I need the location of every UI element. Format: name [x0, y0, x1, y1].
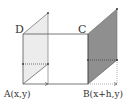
left-dot-top: [47, 12, 49, 14]
label-A: A(x,y): [3, 89, 31, 99]
left-dot-front: [22, 63, 24, 65]
right-dot-back: [116, 59, 118, 61]
left-dot-back: [47, 63, 49, 65]
label-B: B(x+h,y): [83, 89, 123, 99]
geometry-diagram: D C A(x,y) B(x+h,y): [0, 0, 132, 104]
label-C: C: [78, 23, 86, 36]
right-dot-front: [87, 59, 89, 61]
right-dot-top: [116, 8, 118, 10]
right-panel-face: [88, 9, 117, 84]
label-D: D: [15, 23, 24, 36]
